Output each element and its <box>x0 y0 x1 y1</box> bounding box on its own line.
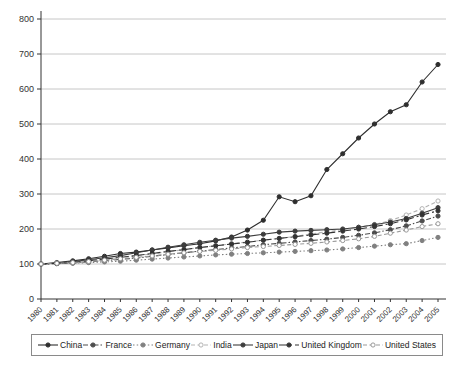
x-tick-label-1980: 1980 <box>25 305 44 324</box>
marker-united-states-1989 <box>182 251 186 255</box>
marker-japan-1997 <box>309 228 313 232</box>
marker-india-2004 <box>420 207 424 211</box>
marker-united-states-2005 <box>436 222 440 226</box>
marker-china-1995 <box>277 195 281 199</box>
marker-germany-1989 <box>182 255 186 259</box>
series-line-china <box>41 65 438 265</box>
marker-united-kingdom-1999 <box>341 229 345 233</box>
legend-line-sample-united-kingdom <box>279 340 299 350</box>
legend-line-sample-united-states <box>363 340 383 350</box>
x-tick-label-1994: 1994 <box>248 305 267 324</box>
marker-germany-1997 <box>309 249 313 253</box>
marker-germany-1991 <box>214 253 218 257</box>
marker-china-1998 <box>325 167 329 171</box>
marker-united-kingdom-2001 <box>372 224 376 228</box>
marker-united-kingdom-1996 <box>293 235 297 239</box>
x-tick-label-2002: 2002 <box>375 305 394 324</box>
x-tick-label-1981: 1981 <box>41 305 60 324</box>
chart-container: 0100200300400500600700800198019811982198… <box>0 0 458 365</box>
marker-japan-1990 <box>198 240 202 244</box>
marker-japan-1996 <box>293 229 297 233</box>
marker-united-states-1983 <box>87 259 91 263</box>
x-tick-label-1986: 1986 <box>121 305 140 324</box>
marker-united-states-1980 <box>39 262 43 266</box>
marker-india-2005 <box>436 199 440 203</box>
marker-united-states-1997 <box>309 241 313 245</box>
marker-germany-2000 <box>357 245 361 249</box>
marker-china-1996 <box>293 200 297 204</box>
marker-united-states-2004 <box>420 224 424 228</box>
marker-united-kingdom-2000 <box>357 227 361 231</box>
legend-item-germany: Germany <box>133 340 190 350</box>
marker-united-states-1984 <box>102 258 106 262</box>
marker-united-states-1987 <box>150 254 154 258</box>
x-tick-label-1983: 1983 <box>73 305 92 324</box>
marker-germany-2005 <box>436 235 440 239</box>
marker-united-kingdom-2004 <box>420 213 424 217</box>
legend-line-sample-japan <box>233 340 253 350</box>
x-tick-label-2003: 2003 <box>391 305 410 324</box>
legend-label-germany: Germany <box>155 340 190 350</box>
x-tick-label-1996: 1996 <box>280 305 299 324</box>
marker-china-1993 <box>245 228 249 232</box>
legend-label-united-states: United States <box>385 340 436 350</box>
legend-line-sample-france <box>83 340 103 350</box>
marker-united-kingdom-2005 <box>436 209 440 213</box>
marker-united-kingdom-1998 <box>325 231 329 235</box>
legend-item-united-kingdom: United Kingdom <box>279 340 361 350</box>
marker-france-2003 <box>404 224 408 228</box>
y-tick-label-800: 800 <box>19 14 34 24</box>
marker-china-2000 <box>357 136 361 140</box>
marker-japan-1991 <box>214 238 218 242</box>
marker-united-states-1996 <box>293 242 297 246</box>
legend-label-india: India <box>213 340 231 350</box>
x-tick-label-1984: 1984 <box>89 305 108 324</box>
marker-united-kingdom-1991 <box>214 244 218 248</box>
y-tick-label-700: 700 <box>19 49 34 59</box>
marker-germany-2003 <box>404 242 408 246</box>
legend-line-sample-india <box>191 340 211 350</box>
y-tick-label-500: 500 <box>19 119 34 129</box>
legend-label-china: China <box>60 340 82 350</box>
marker-united-states-2002 <box>388 231 392 235</box>
legend-label-france: France <box>105 340 131 350</box>
x-tick-label-1989: 1989 <box>168 305 187 324</box>
marker-united-kingdom-2002 <box>388 222 392 226</box>
marker-china-2002 <box>388 110 392 114</box>
marker-germany-1996 <box>293 249 297 253</box>
y-tick-label-100: 100 <box>19 259 34 269</box>
marker-united-states-1990 <box>198 249 202 253</box>
marker-united-states-1993 <box>245 245 249 249</box>
chart-legend: ChinaFranceGermanyIndiaJapanUnited Kingd… <box>31 334 443 356</box>
x-tick-label-1999: 1999 <box>327 305 346 324</box>
marker-germany-1998 <box>325 248 329 252</box>
marker-germany-2002 <box>388 243 392 247</box>
marker-china-2003 <box>404 103 408 107</box>
marker-united-states-1998 <box>325 240 329 244</box>
y-tick-label-400: 400 <box>19 154 34 164</box>
marker-china-2004 <box>420 80 424 84</box>
x-tick-label-1995: 1995 <box>264 305 283 324</box>
marker-germany-2001 <box>372 244 376 248</box>
marker-united-kingdom-1993 <box>245 240 249 244</box>
marker-united-states-2000 <box>357 237 361 241</box>
legend-item-france: France <box>83 340 131 350</box>
marker-united-states-1995 <box>277 243 281 247</box>
marker-united-states-1988 <box>166 252 170 256</box>
marker-china-1999 <box>341 152 345 156</box>
marker-germany-1993 <box>245 251 249 255</box>
marker-united-states-1999 <box>341 238 345 242</box>
marker-united-states-1981 <box>55 261 59 265</box>
marker-france-2005 <box>436 214 440 218</box>
marker-united-states-2001 <box>372 234 376 238</box>
marker-united-states-1994 <box>261 244 265 248</box>
x-tick-label-1998: 1998 <box>311 305 330 324</box>
x-tick-label-1990: 1990 <box>184 305 203 324</box>
legend-label-united-kingdom: United Kingdom <box>301 340 361 350</box>
marker-united-states-1982 <box>71 261 75 265</box>
x-tick-label-1985: 1985 <box>105 305 124 324</box>
x-tick-label-2001: 2001 <box>359 305 378 324</box>
marker-united-states-1991 <box>214 248 218 252</box>
marker-china-2005 <box>436 62 440 66</box>
marker-united-kingdom-2003 <box>404 218 408 222</box>
